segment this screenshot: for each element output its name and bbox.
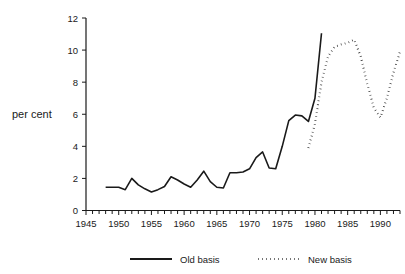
x-tick-label: 1975 [272,218,293,229]
chart-svg: 024681012 194519501955196019651970197519… [0,0,405,274]
x-tick-label: 1945 [75,218,96,229]
x-tick-label: 1980 [304,218,325,229]
x-tick-label: 1955 [141,218,162,229]
x-tick-label: 1985 [337,218,358,229]
y-tick-label: 12 [67,13,78,24]
x-tick-label: 1990 [370,218,391,229]
x-tick-label: 1950 [108,218,129,229]
x-axis: 1945195019551960196519701975198019851990 [75,211,400,229]
y-tick-label: 6 [73,109,78,120]
legend-label-new-basis: New basis [308,254,352,265]
chart-legend: Old basis New basis [130,254,352,265]
x-tick-labels: 1945195019551960196519701975198019851990 [75,218,391,229]
plot-series [106,33,400,192]
y-tick-labels: 024681012 [67,13,78,217]
x-tick-label: 1970 [239,218,260,229]
y-tick-label: 10 [67,45,78,56]
legend-label-old-basis: Old basis [180,254,220,265]
series-line-new-basis [308,40,400,148]
y-tick-label: 0 [73,205,78,216]
x-tick-label: 1965 [206,218,227,229]
x-tick-marks [86,211,400,216]
y-tick-label: 4 [73,141,78,152]
y-tick-label: 2 [73,173,78,184]
chart-figure: 024681012 194519501955196019651970197519… [0,0,405,274]
series-line-old-basis [106,33,322,192]
y-axis-title: per cent [12,108,52,120]
x-tick-label: 1960 [174,218,195,229]
y-axis: 024681012 [67,13,86,217]
y-tick-label: 8 [73,77,78,88]
